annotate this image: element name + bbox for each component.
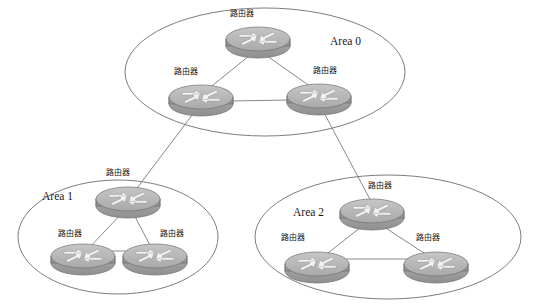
router-label: 路由器 bbox=[230, 8, 254, 18]
area-label-area2: Area 2 bbox=[293, 206, 324, 218]
router-icon[interactable] bbox=[287, 84, 351, 115]
area-label-area1: Area 1 bbox=[42, 190, 73, 202]
router-label: 路由器 bbox=[58, 228, 82, 238]
router-icon[interactable] bbox=[169, 85, 233, 116]
router-label: 路由器 bbox=[174, 66, 198, 76]
routers bbox=[51, 27, 468, 283]
router-label: 路由器 bbox=[281, 232, 305, 242]
router-icon[interactable] bbox=[226, 27, 290, 58]
area-label-area0: Area 0 bbox=[330, 35, 361, 47]
router-icon[interactable] bbox=[404, 252, 468, 283]
link-area0-left-to-area1-top bbox=[131, 110, 196, 196]
router-label: 路由器 bbox=[160, 228, 184, 238]
router-icon[interactable] bbox=[285, 252, 349, 283]
router-icon[interactable] bbox=[123, 244, 187, 275]
router-icon[interactable] bbox=[51, 244, 115, 275]
network-topology-diagram: 路由器 路由器 路由器 路由器 路由器 路由器 路由器 路由器 路由器 Area… bbox=[0, 0, 535, 305]
link-a0left-a0right bbox=[231, 100, 289, 101]
area-labels: Area 0 Area 1 Area 2 bbox=[42, 35, 361, 218]
router-label: 路由器 bbox=[106, 167, 130, 177]
inter-area-links bbox=[131, 109, 373, 205]
router-icon[interactable] bbox=[340, 199, 404, 230]
router-label: 路由器 bbox=[313, 65, 337, 75]
router-icon[interactable] bbox=[96, 187, 160, 218]
router-label: 路由器 bbox=[416, 232, 440, 242]
router-label: 路由器 bbox=[368, 180, 392, 190]
